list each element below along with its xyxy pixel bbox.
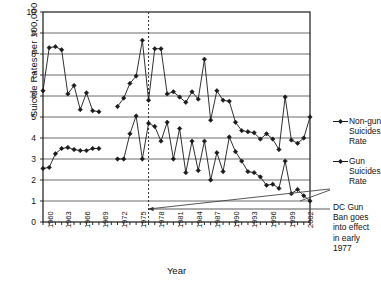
annotation-text-line: DC Gun bbox=[333, 202, 369, 212]
series-line bbox=[43, 147, 99, 168]
legend-label-line: Suicides bbox=[349, 166, 381, 176]
data-point-marker bbox=[97, 146, 101, 150]
data-point-marker bbox=[146, 98, 150, 102]
legend-label-line: Suicides bbox=[349, 126, 381, 136]
data-point-marker bbox=[202, 57, 206, 61]
data-point-marker bbox=[153, 124, 157, 128]
data-point-marker bbox=[308, 115, 312, 119]
data-point-marker bbox=[59, 48, 63, 52]
legend-entry: GunSuicidesRate bbox=[333, 156, 381, 187]
data-point-marker bbox=[90, 146, 94, 150]
data-point-marker bbox=[177, 126, 181, 130]
annotation-text-line: Ban goes bbox=[333, 212, 369, 222]
series-non-gun bbox=[41, 38, 312, 152]
data-point-marker bbox=[165, 120, 169, 124]
data-point-marker bbox=[202, 139, 206, 143]
annotation-leader-line bbox=[149, 189, 330, 209]
data-point-marker bbox=[165, 92, 169, 96]
data-point-marker bbox=[208, 118, 212, 122]
annotation-text-line: 1977 bbox=[333, 243, 369, 253]
data-point-marker bbox=[171, 157, 175, 161]
data-point-marker bbox=[41, 166, 45, 170]
annotation-arrowhead bbox=[149, 207, 154, 211]
series-line bbox=[43, 47, 99, 112]
legend-label-line: Non-gun bbox=[349, 116, 381, 126]
data-point-marker bbox=[78, 107, 82, 111]
legend-label-line: Gun bbox=[349, 156, 381, 166]
data-point-marker bbox=[122, 157, 126, 161]
legend-label-line: Rate bbox=[349, 176, 381, 186]
annotation-text-line: into effect bbox=[333, 222, 369, 232]
data-point-marker bbox=[227, 99, 231, 103]
data-point-marker bbox=[53, 44, 57, 48]
legend-marker-icon bbox=[333, 117, 348, 126]
data-point-marker bbox=[84, 91, 88, 95]
series-line bbox=[118, 40, 310, 149]
series-gun bbox=[41, 114, 312, 203]
data-point-marker bbox=[72, 147, 76, 151]
legend-entry: Non-gunSuicidesRate bbox=[333, 116, 381, 147]
data-point-marker bbox=[115, 157, 119, 161]
data-point-marker bbox=[140, 38, 144, 42]
legend-marker-icon bbox=[333, 157, 348, 166]
data-point-marker bbox=[128, 132, 132, 136]
data-point-marker bbox=[289, 138, 293, 142]
annotation-dc-gun-ban: DC GunBan goesinto effectin early1977 bbox=[333, 202, 369, 253]
data-point-marker bbox=[140, 157, 144, 161]
legend-label-line: Rate bbox=[349, 136, 381, 146]
data-point-marker bbox=[246, 169, 250, 173]
data-point-marker bbox=[246, 130, 250, 134]
data-point-marker bbox=[208, 178, 212, 182]
data-point-marker bbox=[41, 89, 45, 93]
data-point-marker bbox=[215, 151, 219, 155]
data-point-marker bbox=[159, 139, 163, 143]
data-point-marker bbox=[196, 168, 200, 172]
data-point-marker bbox=[153, 47, 157, 51]
data-point-marker bbox=[277, 147, 281, 151]
annotation-text-line: in early bbox=[333, 233, 369, 243]
data-point-marker bbox=[221, 169, 225, 173]
data-point-marker bbox=[47, 165, 51, 169]
data-point-marker bbox=[78, 148, 82, 152]
legend-item-gun-suicides[interactable]: GunSuicidesRate bbox=[333, 156, 381, 187]
data-point-marker bbox=[66, 145, 70, 149]
data-point-marker bbox=[184, 170, 188, 174]
data-point-marker bbox=[190, 139, 194, 143]
data-point-marker bbox=[159, 47, 163, 51]
legend-item-non-gun-suicides[interactable]: Non-gunSuicidesRate bbox=[333, 116, 381, 147]
data-point-marker bbox=[84, 148, 88, 152]
data-point-marker bbox=[47, 46, 51, 50]
data-point-marker bbox=[146, 121, 150, 125]
data-point-marker bbox=[283, 159, 287, 163]
data-point-marker bbox=[90, 109, 94, 113]
data-point-marker bbox=[97, 110, 101, 114]
